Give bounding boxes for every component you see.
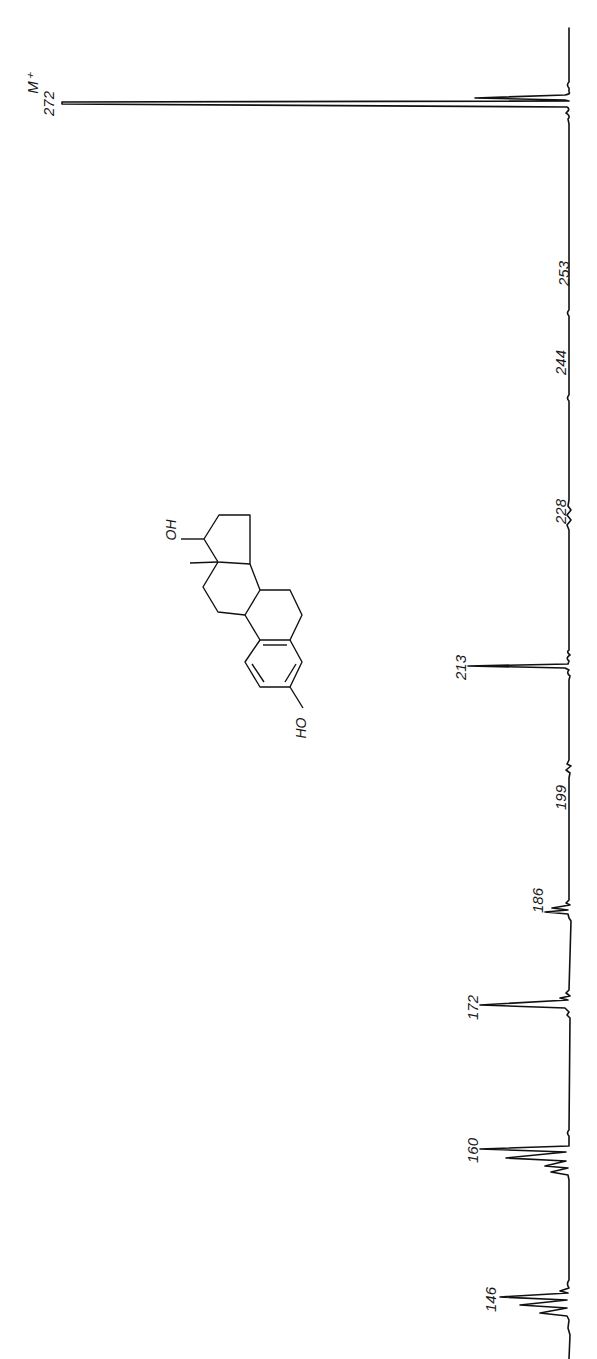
peak-label-228: 228	[553, 499, 568, 524]
hydroxyl-label-3: HO	[293, 718, 309, 739]
peak-label-mplus: M⁺	[25, 73, 40, 94]
peak-label-253: 253	[556, 261, 571, 286]
peak-label-172: 172	[465, 995, 480, 1020]
peak-label-244: 244	[553, 350, 568, 375]
hydroxyl-label-17: OH	[163, 520, 179, 541]
peak-label-272: 272	[41, 91, 56, 116]
peak-label-186: 186	[530, 888, 545, 913]
peak-label-146: 146	[483, 1287, 498, 1312]
peak-label-199: 199	[553, 785, 568, 810]
peak-label-160: 160	[465, 1138, 480, 1163]
peak-label-213: 213	[453, 655, 468, 680]
